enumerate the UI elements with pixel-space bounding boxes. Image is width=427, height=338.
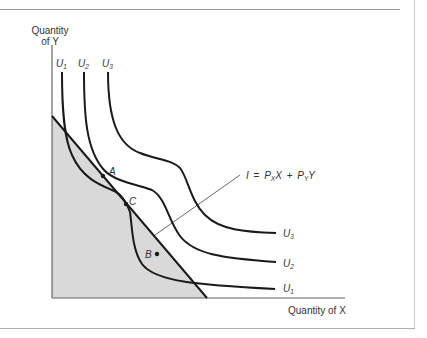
- y-axis-label: Quantity of Y: [20, 25, 80, 47]
- budget-equation-label: I = PXX + PYY: [246, 170, 315, 184]
- point-a-label: A: [109, 166, 116, 177]
- u1-right-label: U1: [283, 283, 294, 297]
- u3-top-label: U3: [102, 58, 113, 72]
- u1-top-label: U1: [56, 58, 67, 72]
- y-axis-label-line2: of Y: [20, 36, 80, 47]
- point-b-label: B: [145, 249, 152, 260]
- point-b-dot: [155, 252, 159, 256]
- u2-top-label: U2: [78, 58, 89, 72]
- x-axis-label: Quantity of X: [288, 305, 346, 316]
- y-axis-label-line1: Quantity: [20, 25, 80, 36]
- indifference-diagram: [0, 0, 427, 338]
- point-c-dot: [124, 202, 128, 206]
- u3-right-label: U3: [283, 228, 294, 242]
- u2-right-label: U2: [283, 258, 294, 272]
- point-a-dot: [101, 174, 105, 178]
- point-c-label: C: [129, 196, 136, 207]
